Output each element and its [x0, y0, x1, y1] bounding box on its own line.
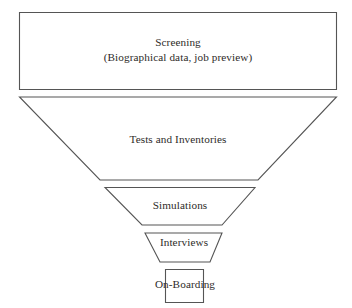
stage-title-on-boarding: On-Boarding — [124, 278, 246, 292]
stage-title-simulations: Simulations — [105, 199, 255, 213]
stage-title-tests-and-inventories: Tests and Inventories — [19, 133, 337, 147]
funnel-diagram: Screening (Biographical data, job previe… — [0, 0, 352, 308]
stage-label-screening: Screening (Biographical data, job previe… — [19, 36, 337, 64]
stage-title-interviews: Interviews — [133, 236, 235, 250]
stage-subtitle-screening: (Biographical data, job preview) — [19, 51, 337, 65]
stage-label-on-boarding: On-Boarding — [124, 278, 246, 292]
stage-label-interviews: Interviews — [133, 236, 235, 250]
stage-label-tests-and-inventories: Tests and Inventories — [19, 133, 337, 147]
stage-label-simulations: Simulations — [105, 199, 255, 213]
stage-title-screening: Screening — [19, 36, 337, 50]
